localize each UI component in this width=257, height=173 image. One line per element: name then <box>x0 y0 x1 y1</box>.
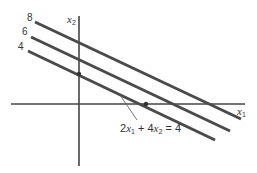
equation-label: 2x1 + 4x2 = 4 <box>120 122 181 135</box>
x1-axis-label: x1 <box>236 105 246 118</box>
level-label-8: 8 <box>27 12 33 23</box>
x2-axis-label: x2 <box>66 13 76 26</box>
level-label-4: 4 <box>18 41 24 52</box>
level-lines-diagram: 8 6 4 x2 x1 2x1 + 4x2 = 4 <box>0 0 257 173</box>
level-line-6 <box>31 37 230 131</box>
x1-intercept-dot <box>144 102 148 106</box>
level-label-6: 6 <box>22 26 28 37</box>
x2-intercept-dot <box>77 72 81 76</box>
